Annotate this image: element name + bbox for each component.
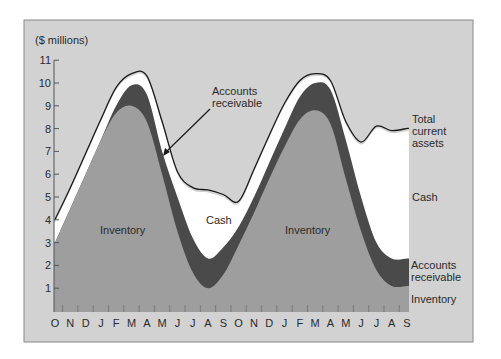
y-tick-label: 1 xyxy=(45,282,51,294)
y-tick-label: 5 xyxy=(45,191,51,203)
x-tick-label: J xyxy=(282,317,288,329)
y-tick-label: 2 xyxy=(45,259,51,271)
inventory-label-right: Inventory xyxy=(285,224,331,236)
x-tick-label: O xyxy=(234,317,243,329)
x-tick-label: J xyxy=(98,317,104,329)
x-tick-label: M xyxy=(158,317,167,329)
y-tick-label: 7 xyxy=(45,145,51,157)
x-tick-label: D xyxy=(265,317,273,329)
total-current-assets-label-3: assets xyxy=(412,137,444,149)
x-tick-label: S xyxy=(403,317,410,329)
chart-svg: 1234567891011 ONDJFMAMJJASONDJFMAMJJAS (… xyxy=(0,0,501,359)
y-axis-unit-label: ($ millions) xyxy=(35,34,88,46)
x-tick-label: F xyxy=(113,317,120,329)
cash-label-mid: Cash xyxy=(206,214,232,226)
x-tick-label: S xyxy=(220,317,227,329)
x-tick-label: N xyxy=(66,317,74,329)
x-tick-label: N xyxy=(250,317,258,329)
total-current-assets-label-2: current xyxy=(412,125,446,137)
x-tick-label: J xyxy=(358,317,364,329)
x-tick-label: A xyxy=(327,317,335,329)
accounts-receivable-label-right-2: receivable xyxy=(411,271,461,283)
x-tick-label: J xyxy=(190,317,196,329)
x-tick-label: J xyxy=(175,317,181,329)
x-tick-label: A xyxy=(204,317,212,329)
x-axis-strip xyxy=(54,302,409,312)
y-tick-label: 6 xyxy=(45,168,51,180)
x-tick-label: O xyxy=(51,317,60,329)
chart-container: 1234567891011 ONDJFMAMJJASONDJFMAMJJAS (… xyxy=(0,0,501,359)
x-tick-label: A xyxy=(143,317,151,329)
x-tick-label: A xyxy=(388,317,396,329)
y-tick-label: 8 xyxy=(45,123,51,135)
x-tick-label: J xyxy=(374,317,380,329)
y-tick-label: 4 xyxy=(45,214,51,226)
cash-label-right: Cash xyxy=(412,191,438,203)
y-tick-label: 10 xyxy=(39,77,51,89)
x-tick-label: M xyxy=(311,317,320,329)
x-tick-label: M xyxy=(127,317,136,329)
y-tick-label: 9 xyxy=(45,100,51,112)
x-tick-label: M xyxy=(341,317,350,329)
inventory-label-left: Inventory xyxy=(100,224,146,236)
y-tick-label: 11 xyxy=(40,54,51,66)
accounts-receivable-label-right-1: Accounts xyxy=(411,259,457,271)
x-tick-label: F xyxy=(297,317,304,329)
ar-callout-label-line1: Accounts xyxy=(212,85,258,97)
total-current-assets-label-1: Total xyxy=(412,113,435,125)
x-tick-label: D xyxy=(82,317,90,329)
y-tick-label: 3 xyxy=(45,237,51,249)
inventory-label-right-edge: Inventory xyxy=(411,293,457,305)
ar-callout-label-line2: receivable xyxy=(212,97,262,109)
